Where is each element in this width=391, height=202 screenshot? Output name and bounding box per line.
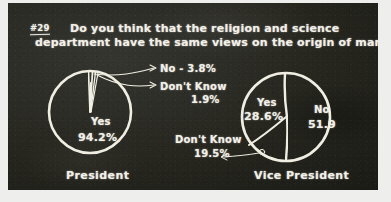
vice-president-dont-know-label: Don't Know	[175, 134, 242, 145]
chalkboard: #29 Do you think that the religion and s…	[8, 3, 378, 190]
question-title-line2: department have the same views on the or…	[35, 36, 378, 49]
president-no-label: No - 3.8%	[160, 63, 216, 74]
vice-president-yes-value: 28.6%	[244, 110, 283, 123]
president-yes-value: 94.2%	[78, 131, 117, 144]
president-dont-know-value: 1.9%	[191, 94, 220, 105]
president-yes-label: Yes	[91, 116, 111, 127]
question-title-line1: Do you think that the religion and scien…	[70, 22, 339, 35]
vice-president-no-label: No	[314, 104, 330, 115]
vice-president-dont-know-value: 19.5%	[194, 148, 230, 159]
caption-president: President	[66, 169, 129, 182]
question-number: #29	[30, 23, 50, 35]
vice-president-yes-label: Yes	[257, 97, 277, 108]
caption-vice-president: Vice President	[254, 169, 349, 182]
vice-president-no-value: 51.9	[308, 118, 336, 131]
chalkboard-slide: #29 Do you think that the religion and s…	[0, 0, 391, 202]
president-dont-know-label: Don't Know	[160, 81, 227, 92]
